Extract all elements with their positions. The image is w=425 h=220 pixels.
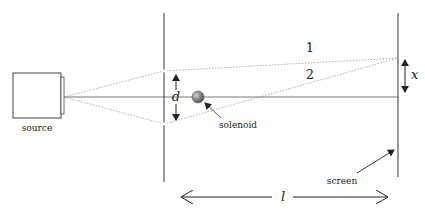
incoming-rays: [64, 71, 164, 124]
d-label: d: [172, 89, 180, 104]
solenoid-label: solenoid: [219, 120, 257, 130]
x-label: x: [411, 67, 419, 82]
diagram-canvas: source d solenoid 1 2 x screen l: [0, 0, 425, 220]
path-1-ray: [164, 58, 398, 71]
screen-pointer: [357, 150, 394, 173]
source-box: [13, 73, 64, 118]
solenoid: [192, 91, 204, 103]
upper-slit: [163, 70, 166, 73]
lower-slit: [163, 123, 166, 126]
path-2-label: 2: [306, 67, 314, 82]
path-1-label: 1: [306, 40, 314, 55]
l-label: l: [281, 189, 285, 204]
screen-label: screen: [327, 176, 358, 186]
solenoid-pointer: [205, 103, 221, 118]
source-label: source: [22, 123, 53, 133]
